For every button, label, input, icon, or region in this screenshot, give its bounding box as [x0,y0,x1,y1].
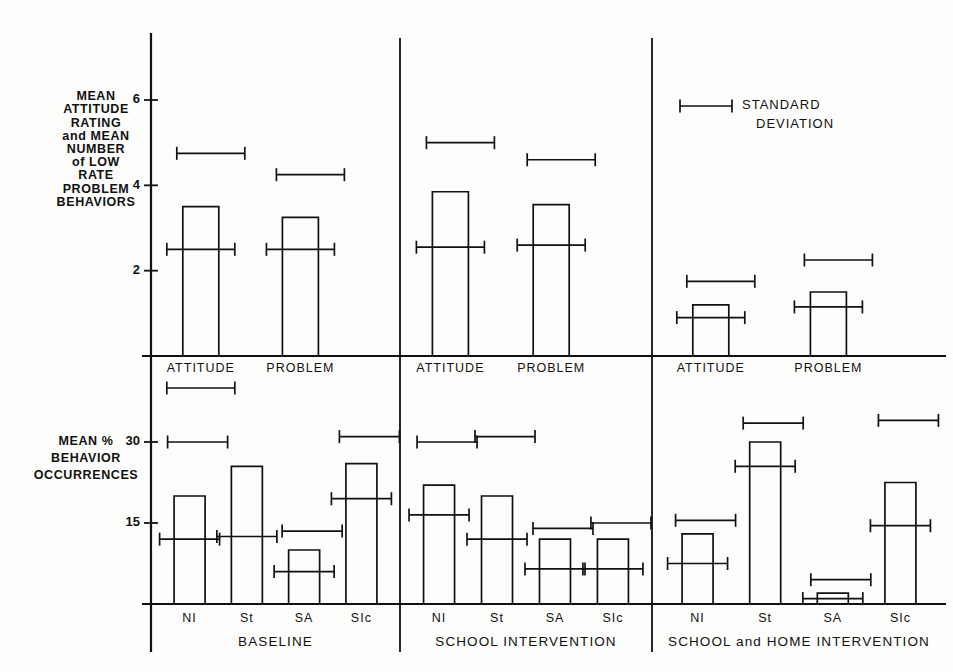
lower-error-bar-1-1 [467,533,527,546]
upper-axis-label-line-6: RATE [78,168,114,182]
upper-axis-label-line-7: PROBLEM [63,182,130,196]
upper-category-label-0-0: ATTITUDE [167,361,235,375]
lower-sd-bar-1-0 [417,436,477,449]
upper-sd-bar-1-1 [527,153,595,166]
panel-name-0: BASELINE [238,634,313,649]
upper-axis-label-line-2: RATING [71,116,122,130]
upper-bar-2-0 [693,305,729,356]
lower-category-label-2-1: St [758,611,772,625]
panel-name-2: SCHOOL and HOME INTERVENTION [668,634,930,649]
upper-axis-label-line-1: ATTITUDE [63,102,129,116]
upper-bar-0-1 [282,217,318,356]
lower-error-bar-2-0 [668,557,728,570]
upper-error-bar-1-0 [416,241,484,254]
lower-bar-0-0 [174,496,205,604]
upper-error-bar-1-1 [517,239,585,252]
upper-sd-bar-0-1 [276,168,344,181]
lower-category-label-0-1: St [240,611,254,625]
lower-error-bar-1-2 [525,562,585,575]
upper-error-bar-2-1 [794,300,862,313]
lower-category-label-1-3: SIc [602,611,623,625]
lower-bar-1-2 [539,539,570,604]
lower-error-bar-1-3 [583,562,643,575]
upper-ytick-label-2: 2 [133,262,140,277]
lower-bar-1-1 [482,496,513,604]
lower-category-label-1-2: SA [546,611,565,625]
lower-error-bar-0-1 [217,530,277,543]
lower-error-bar-0-3 [331,492,391,505]
lower-sd-bar-2-0 [676,514,736,527]
lower-error-bar-0-2 [274,565,334,578]
lower-category-label-1-0: NI [432,611,447,625]
lower-sd-bar-2-1 [743,417,803,430]
upper-category-label-1-0: ATTITUDE [416,361,484,375]
upper-ytick-label-6: 6 [133,91,140,106]
lower-category-label-1-1: St [490,611,504,625]
lower-category-label-0-0: NI [182,611,197,625]
lower-error-bar-1-0 [409,508,469,521]
upper-category-label-0-1: PROBLEM [266,361,334,375]
lower-category-label-0-3: SIc [351,611,372,625]
lower-sd-bar-2-2 [811,573,871,586]
upper-bar-0-0 [183,207,219,356]
lower-category-label-2-0: NI [690,611,705,625]
lower-sd-bar-2-3 [878,414,938,427]
lower-axis-label-line-2: OCCURRENCES [34,468,139,482]
lower-sd-bar-0-2 [282,525,342,538]
lower-bar-1-3 [597,539,628,604]
upper-bar-1-1 [533,205,569,356]
lower-ytick-label-30: 30 [126,433,140,448]
upper-error-bar-2-0 [677,311,745,324]
upper-error-bar-0-0 [167,243,235,256]
lower-sd-bar-1-1 [475,430,535,443]
panel-name-1: SCHOOL INTERVENTION [435,634,616,649]
lower-category-label-0-2: SA [295,611,314,625]
upper-sd-bar-2-1 [804,254,872,267]
lower-sd-bar-1-2 [533,522,593,535]
scientific-bar-chart: 2461530MEANATTITUDERATINGand MEANNUMBERo… [0,0,953,672]
upper-axis-label-line-4: NUMBER [67,142,125,156]
lower-category-label-2-2: SA [823,611,842,625]
upper-ytick-label-4: 4 [133,177,141,192]
lower-bar-1-0 [424,485,455,604]
upper-sd-bar-below-axis-0 [167,382,235,395]
upper-axis-label-line-0: MEAN [76,89,115,103]
lower-bar-2-3 [885,483,916,605]
lower-axis-label-line-1: BEHAVIOR [51,451,121,465]
legend-label-line2: DEVIATION [756,116,834,131]
lower-error-bar-2-3 [870,519,930,532]
lower-bar-2-0 [682,534,713,604]
upper-sd-bar-2-0 [687,275,755,288]
legend-error-bar-marker [680,100,732,113]
lower-bar-0-3 [346,464,377,604]
lower-sd-bar-1-3 [591,517,651,530]
figure-container: 2461530MEANATTITUDERATINGand MEANNUMBERo… [0,0,953,672]
lower-bar-0-1 [231,466,262,604]
lower-category-label-2-3: SIc [890,611,911,625]
lower-error-bar-2-1 [735,460,795,473]
upper-sd-bar-1-0 [426,136,494,149]
upper-axis-label-line-8: BEHAVIORS [57,195,136,209]
upper-bar-2-1 [810,292,846,356]
lower-ytick-label-15: 15 [126,514,140,529]
lower-axis-label-line-0: MEAN % [59,434,114,448]
upper-axis-label-line-3: and MEAN [62,129,129,143]
upper-sd-bar-0-0 [177,147,245,160]
lower-error-bar-0-0 [160,533,220,546]
lower-sd-bar-0-3 [339,430,399,443]
lower-sd-bar-0-0 [168,436,228,449]
upper-axis-label-line-5: of LOW [72,155,120,169]
upper-error-bar-0-1 [266,243,334,256]
upper-category-label-2-1: PROBLEM [794,361,862,375]
upper-category-label-1-1: PROBLEM [517,361,585,375]
upper-category-label-2-0: ATTITUDE [677,361,745,375]
legend-label-line1: STANDARD [742,97,821,112]
upper-bar-1-0 [432,192,468,356]
lower-bar-0-2 [289,550,320,604]
